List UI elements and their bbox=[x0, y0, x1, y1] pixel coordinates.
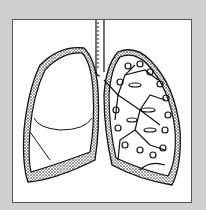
trachea bbox=[96, 20, 104, 76]
left-lung bbox=[24, 48, 99, 182]
right-lung bbox=[104, 50, 180, 185]
lungs-illustration bbox=[0, 0, 206, 210]
